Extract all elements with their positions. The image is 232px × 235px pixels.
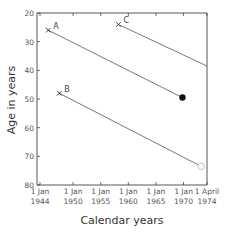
- filled-circle-marker-icon: [179, 94, 185, 100]
- y-axis-title: Age in years: [5, 65, 18, 134]
- series-line: [118, 24, 207, 66]
- x-tick-label-bottom: 1960: [119, 197, 138, 206]
- series-label: A: [53, 22, 59, 31]
- x-tick-label-bottom: 1944: [30, 197, 49, 206]
- x-tick-label-bottom: 1950: [64, 197, 83, 206]
- y-tick-label: 60: [24, 124, 34, 133]
- y-tick-label: 70: [24, 152, 34, 161]
- series-c: C: [116, 16, 207, 66]
- x-ticks: 1 Jan19441 Jan19501 Jan19551 Jan19601 Ja…: [30, 13, 219, 206]
- series-group: ABC: [46, 16, 207, 169]
- series-label: B: [64, 85, 70, 94]
- y-ticks: 20304050607080: [24, 9, 40, 190]
- chart: 20304050607080 1 Jan19441 Jan19501 Jan19…: [0, 0, 232, 235]
- x-tick-label-bottom: 1974: [197, 197, 216, 206]
- x-tick-label-bottom: 1955: [91, 197, 110, 206]
- y-tick-label: 50: [24, 95, 34, 104]
- x-tick-label-top: 1 Jan: [64, 187, 83, 196]
- x-tick-label-top: 1 Jan: [147, 187, 166, 196]
- y-tick-label: 30: [24, 38, 34, 47]
- open-circle-marker-icon: [198, 163, 204, 169]
- series-label: C: [123, 16, 129, 25]
- x-tick-label-top: 1 Jan: [174, 187, 193, 196]
- series-line: [59, 93, 201, 166]
- x-tick-label-bottom: 1970: [174, 197, 193, 206]
- y-tick-label: 20: [24, 9, 34, 18]
- x-tick-label-top: 1 April: [195, 187, 219, 196]
- x-tick-label-bottom: 1965: [146, 197, 165, 206]
- x-tick-label-top: 1 Jan: [31, 187, 50, 196]
- x-tick-label-top: 1 Jan: [91, 187, 110, 196]
- x-axis-title: Calendar years: [80, 214, 163, 227]
- y-tick-label: 40: [24, 66, 34, 75]
- x-tick-label-top: 1 Jan: [119, 187, 138, 196]
